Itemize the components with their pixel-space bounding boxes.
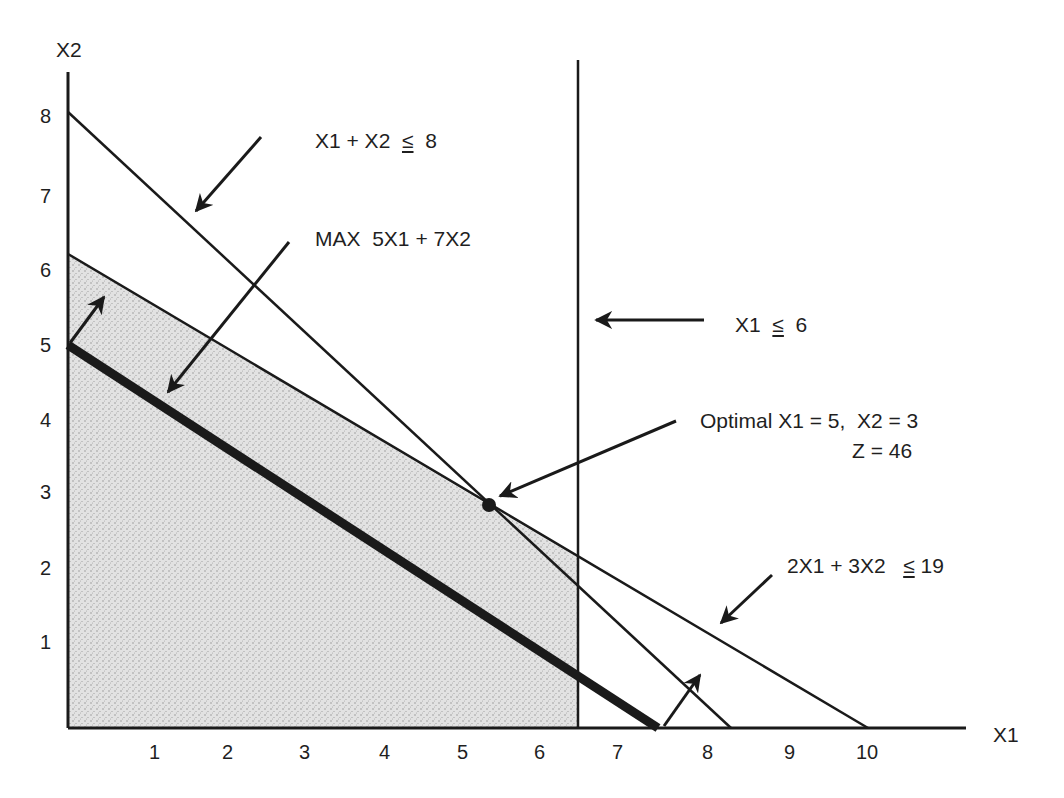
label-text: 6 bbox=[784, 313, 807, 336]
x-tick: 10 bbox=[856, 742, 878, 762]
x-tick: 5 bbox=[457, 742, 468, 762]
optimal-value-label: Z = 46 bbox=[852, 440, 912, 461]
le-symbol: ≤ bbox=[402, 129, 414, 152]
y-tick: 8 bbox=[40, 106, 51, 126]
x-tick: 3 bbox=[299, 742, 310, 762]
x-tick: 7 bbox=[612, 742, 623, 762]
le-symbol: ≤ bbox=[772, 313, 784, 336]
constraint-label-x1-le-6: X1 ≤ 6 bbox=[735, 314, 807, 335]
y-tick: 4 bbox=[40, 410, 51, 430]
pointer-arrow-icon bbox=[196, 137, 261, 211]
label-text: 8 bbox=[414, 129, 437, 152]
pointer-arrow-icon bbox=[500, 421, 676, 496]
label-text: 19 bbox=[915, 554, 944, 577]
optimal-label: Optimal X1 = 5, X2 = 3 bbox=[700, 410, 918, 431]
x-tick: 6 bbox=[534, 742, 545, 762]
x-tick: 1 bbox=[149, 742, 160, 762]
x-axis-title: X1 bbox=[993, 724, 1019, 745]
label-text: X1 bbox=[735, 313, 772, 336]
x-tick: 9 bbox=[784, 742, 795, 762]
label-text: 2X1 + 3X2 bbox=[787, 554, 903, 577]
optimal-point bbox=[482, 498, 496, 512]
constraint-label-2x1-plus-3x2: 2X1 + 3X2 ≤ 19 bbox=[787, 555, 944, 576]
feasible-region bbox=[68, 254, 578, 728]
x-tick: 4 bbox=[379, 742, 390, 762]
x-tick: 2 bbox=[222, 742, 233, 762]
x-tick: 8 bbox=[702, 742, 713, 762]
y-tick: 5 bbox=[40, 335, 51, 355]
y-tick: 3 bbox=[40, 482, 51, 502]
y-tick: 1 bbox=[40, 632, 51, 652]
y-tick: 2 bbox=[40, 558, 51, 578]
y-tick: 7 bbox=[40, 186, 51, 206]
label-text: X1 + X2 bbox=[315, 129, 402, 152]
le-symbol: ≤ bbox=[903, 554, 915, 577]
constraint-label-x1-plus-x2: X1 + X2 ≤ 8 bbox=[315, 130, 437, 151]
pointer-arrow-icon bbox=[721, 575, 772, 623]
objective-label: MAX 5X1 + 7X2 bbox=[315, 228, 471, 249]
y-axis-title: X2 bbox=[56, 39, 82, 60]
y-tick: 6 bbox=[40, 260, 51, 280]
lp-graph bbox=[0, 0, 1064, 798]
